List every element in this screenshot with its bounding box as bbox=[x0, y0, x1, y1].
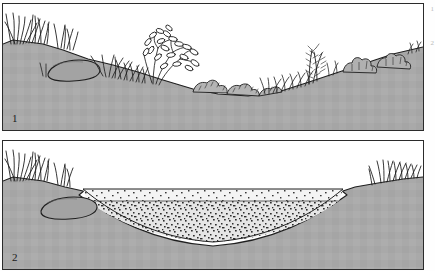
figure-container: 1 bbox=[0, 0, 435, 271]
panel-stage-1: 1 bbox=[2, 3, 424, 131]
coarse-gravel-upper-layer-2 bbox=[83, 189, 343, 201]
panel-2-number: 2 bbox=[12, 252, 18, 263]
edge-mark-1: 1 bbox=[431, 6, 435, 13]
panel-1-illustration bbox=[3, 4, 423, 130]
edge-mark-2: 2 bbox=[431, 40, 435, 47]
panel-stage-2: 2 bbox=[2, 140, 424, 270]
panel-1-number: 1 bbox=[12, 113, 18, 124]
panel-2-illustration bbox=[3, 141, 423, 269]
